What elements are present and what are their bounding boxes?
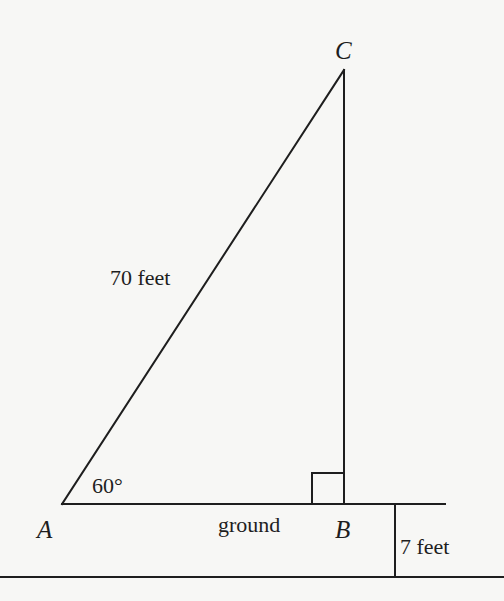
point-label-c: C: [335, 38, 352, 63]
diagram-lines: [0, 0, 504, 601]
hypotenuse-length-label: 70 feet: [110, 267, 170, 289]
triangle-diagram: C A B 70 feet 60° ground 7 feet: [0, 0, 504, 601]
angle-a-label: 60°: [92, 475, 123, 497]
right-angle-marker: [312, 473, 344, 504]
ground-label: ground: [218, 514, 280, 536]
point-label-b: B: [335, 517, 350, 542]
hypotenuse-AC: [62, 70, 344, 504]
height-offset-label: 7 feet: [400, 536, 449, 558]
point-label-a: A: [37, 517, 52, 542]
